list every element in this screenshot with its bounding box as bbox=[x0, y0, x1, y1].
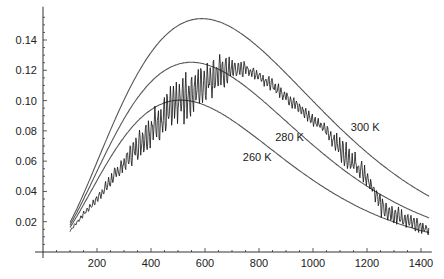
measured-spectrum bbox=[70, 54, 429, 235]
spectrum-chart: 0.020.040.060.080.100.120.14 20040060080… bbox=[0, 0, 444, 279]
x-axis: 200400600800100012001400 bbox=[35, 248, 433, 269]
y-axis: 0.020.040.060.080.100.120.14 bbox=[16, 7, 47, 258]
curve-label-300k: 300 K bbox=[351, 121, 380, 133]
y-tick-label: 0.08 bbox=[16, 125, 37, 137]
measured-spectrum-line bbox=[70, 54, 429, 235]
x-tick-label: 600 bbox=[196, 257, 214, 269]
y-tick-label: 0.12 bbox=[16, 64, 37, 76]
curve-label-280k: 280 K bbox=[275, 131, 304, 143]
y-tick-label: 0.10 bbox=[16, 95, 37, 107]
y-tick-label: 0.14 bbox=[16, 34, 37, 46]
curve-labels: 300 K280 K260 K bbox=[243, 121, 380, 163]
curve-label-260k: 260 K bbox=[243, 151, 272, 163]
x-tick-label: 200 bbox=[88, 257, 106, 269]
x-tick-label: 800 bbox=[250, 257, 268, 269]
x-tick-label: 1400 bbox=[409, 257, 433, 269]
y-tick-label: 0.02 bbox=[16, 216, 37, 228]
x-tick-label: 400 bbox=[142, 257, 160, 269]
y-tick-label: 0.04 bbox=[16, 185, 37, 197]
x-tick-label: 1200 bbox=[355, 257, 379, 269]
y-tick-label: 0.06 bbox=[16, 155, 37, 167]
x-tick-label: 1000 bbox=[301, 257, 325, 269]
